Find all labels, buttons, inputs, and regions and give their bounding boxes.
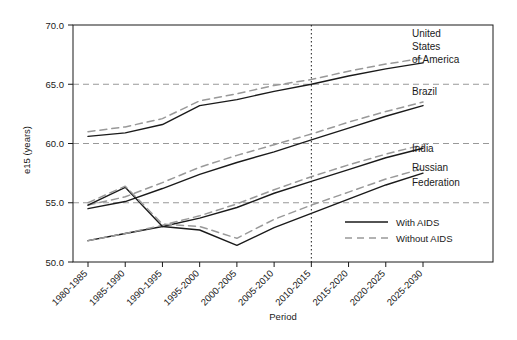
y-tick-label: 65.0 (46, 79, 65, 90)
x-axis-title: Period (269, 311, 296, 322)
y-tick-label: 55.0 (46, 197, 65, 208)
series-label-russia-line2: Federation (412, 177, 460, 188)
legend-label-with-aids: With AIDS (396, 217, 439, 228)
life-expectancy-chart: 50.055.060.065.070.0 1980-19851985-19901… (0, 0, 517, 340)
series-label-india: India (412, 143, 434, 154)
y-axis-title: e15 (years) (21, 126, 32, 174)
y-tick-label: 70.0 (46, 20, 65, 31)
series-label-russia-line1: Russian (412, 162, 448, 173)
chart-canvas: 50.055.060.065.070.0 1980-19851985-19901… (0, 0, 517, 340)
y-tick-label: 50.0 (46, 257, 65, 268)
y-tick-label: 60.0 (46, 138, 65, 149)
series-label-usa-line1: United (412, 28, 441, 39)
legend-label-without-aids: Without AIDS (396, 233, 453, 244)
series-label-usa-line2: States (412, 41, 440, 52)
series-label-brazil: Brazil (412, 86, 437, 97)
series-label-usa-line3: of America (412, 54, 460, 65)
